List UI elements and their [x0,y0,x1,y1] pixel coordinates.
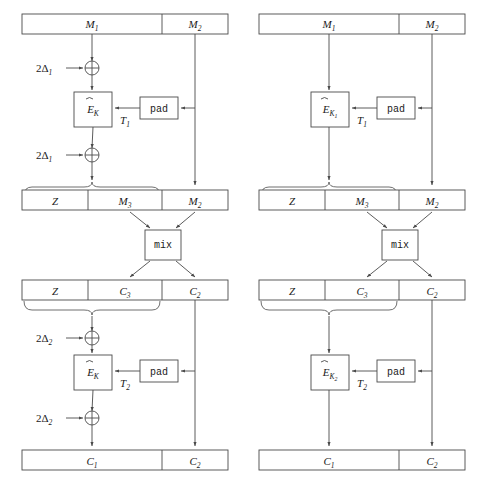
right-top-bar: M1 M2 [259,14,465,34]
left-tweak-t1-label: T1 [120,114,130,129]
left-xor-4 [85,411,99,425]
right-pad-top-label: pad [387,104,405,115]
left-diagram: M1 M2 2Δ1 EK pad T1 [22,14,228,470]
left-m3-to-mix-arrow [130,212,150,228]
right-cipher-top: EK1 [311,92,349,127]
left-mid-bar-2: Z C3 C2 [22,280,228,300]
right-tweak-t1-label: T1 [357,114,367,129]
figure-container: M1 M2 2Δ1 EK pad T1 [0,0,477,486]
left-top-bar: M1 M2 [22,14,228,34]
right-brace-bottom [261,301,397,315]
left-cipher-top: EK [74,92,112,127]
left-tweak-t2-label: T2 [120,377,130,392]
left-m2-to-mix-arrow [176,212,195,228]
right-bottom-bar: C1 C2 [259,450,465,470]
right-m2-to-mix-arrow [413,212,432,228]
crypto-diagram-svg: M1 M2 2Δ1 EK pad T1 [0,0,477,486]
right-tweak-t2-label: T2 [357,377,367,392]
left-brace-bottom [24,301,160,315]
left-mix: mix [145,230,181,260]
right-mid-bar-label-z: Z [289,195,296,207]
right-pad-top: pad [377,97,415,119]
left-mid-bar-2-label-z: Z [52,285,59,297]
right-mix-to-c3-arrow [367,261,387,277]
left-delta-1-bottom-label: 2Δ1 [36,149,52,164]
left-mix-to-c2-arrow [176,261,195,277]
left-mid-bar-label-z: Z [52,195,59,207]
left-delta-2-top-label: 2Δ2 [36,332,53,347]
left-xor-3 [85,331,99,345]
right-mid-bar-2-label-z: Z [289,285,296,297]
right-mix-to-c2-arrow [413,261,432,277]
left-delta-1-top-label: 2Δ1 [36,62,52,77]
left-mix-label: mix [154,240,172,251]
left-mix-to-c3-arrow [130,261,150,277]
left-mid-bar: Z M3 M2 [22,190,228,210]
left-pad-bottom-label: pad [150,367,168,378]
left-pad-bottom: pad [140,360,178,382]
right-m3-to-mix-arrow [367,212,387,228]
right-mid-bar-2: Z C3 C2 [259,280,465,300]
left-delta-2-bottom-label: 2Δ2 [36,412,53,427]
left-xor-1 [85,61,99,75]
right-pad-bottom: pad [377,360,415,382]
left-bottom-bar: C1 C2 [22,450,228,470]
right-mix: mix [382,230,418,260]
left-cipher-bottom: EK [74,355,112,390]
left-cipher1-to-xor2-line [92,127,93,148]
left-pad-top: pad [140,97,178,119]
right-cipher-bottom: EK2 [311,355,349,390]
left-xor-2 [85,148,99,162]
right-diagram: M1 M2 EK1 pad T1 Z M3 [259,14,465,470]
left-pad-top-label: pad [150,104,168,115]
right-mix-label: mix [391,240,409,251]
right-pad-bottom-label: pad [387,367,405,378]
right-mid-bar: Z M3 M2 [259,190,465,210]
left-cipher2-to-xor4-line [92,390,93,411]
